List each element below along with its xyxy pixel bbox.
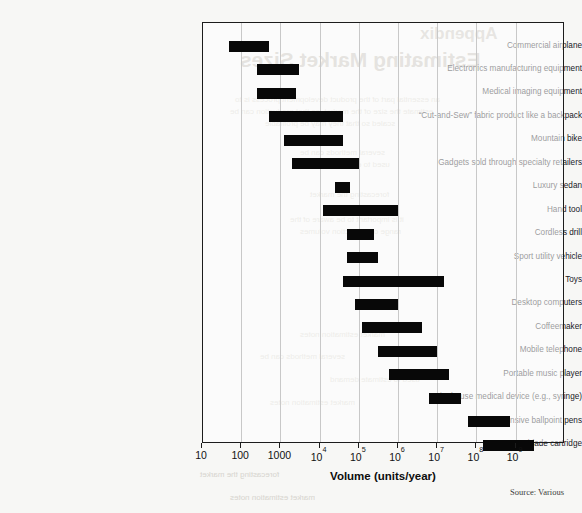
range-bar [257, 64, 299, 75]
x-axis-tick-label: 107 [428, 449, 444, 463]
x-axis-tick-label: 100 [231, 449, 249, 461]
x-axis-tick [515, 443, 516, 448]
plot-area [202, 22, 564, 443]
gridline-100 [241, 23, 242, 442]
range-bar [378, 346, 438, 357]
x-axis-tick-label: 10 [195, 449, 207, 461]
range-bar [284, 135, 344, 146]
range-bar [347, 229, 374, 240]
range-bar [292, 158, 359, 169]
range-bar [343, 276, 444, 287]
range-bar [362, 322, 422, 333]
source-note: Source: Various [510, 487, 564, 497]
range-bar [468, 416, 510, 427]
x-axis-tick [240, 443, 241, 448]
market-size-chart: Commercial airplaneElectronics manufactu… [0, 0, 582, 513]
range-bar [429, 393, 461, 404]
x-axis-tick-label: 108 [468, 449, 484, 463]
range-bar [335, 182, 350, 193]
range-bar [389, 369, 449, 380]
gridline-1000 [280, 23, 281, 442]
x-axis-tick-label: 106 [389, 449, 405, 463]
gridline-10⁹ [516, 23, 517, 442]
range-bar [229, 41, 268, 52]
x-axis-tick [358, 443, 359, 448]
range-bar [323, 205, 398, 216]
x-axis-tick [475, 443, 476, 448]
x-axis-tick [201, 443, 202, 448]
x-axis-tick [436, 443, 437, 448]
gridline-10⁸ [476, 23, 477, 442]
x-axis-tick-label: 105 [350, 449, 366, 463]
x-axis-tick [319, 443, 320, 448]
range-bar [269, 111, 344, 122]
range-bar [347, 252, 378, 263]
x-axis-tick-label: 104 [311, 449, 327, 463]
gridline-10⁴ [320, 23, 321, 442]
x-axis-tick [397, 443, 398, 448]
range-bar [355, 299, 398, 310]
range-bar [257, 88, 296, 99]
x-axis-tick [279, 443, 280, 448]
x-axis-tick-label: 1000 [268, 449, 291, 461]
x-axis-title: Volume (units/year) [202, 470, 564, 482]
x-axis-tick-label: 109 [507, 449, 523, 463]
